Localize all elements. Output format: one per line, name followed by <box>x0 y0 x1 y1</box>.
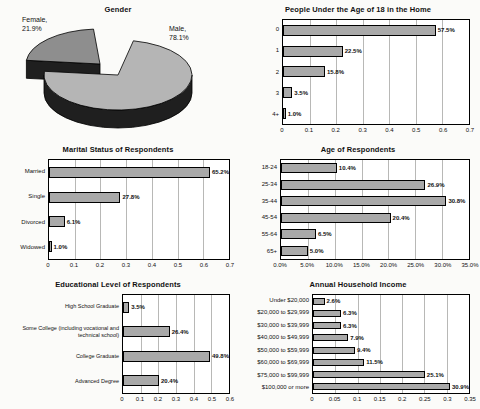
bar <box>49 192 120 203</box>
category-label: $50,000 to $59,999 <box>246 344 312 357</box>
value-label: 9.4% <box>357 347 371 353</box>
bar <box>313 322 341 329</box>
x-tick-label: 0.4 <box>148 262 156 268</box>
category-label: 0 <box>246 19 282 40</box>
bar <box>49 241 52 252</box>
plot-area: 10.4%26.9%30.8%20.4%6.5%5.0% <box>280 159 470 260</box>
category-label: Widowed <box>6 235 48 260</box>
bar-row: 27.8% <box>49 185 229 210</box>
bar-row: 65.2% <box>49 160 229 185</box>
category-axis: High School GraduateSome College (includ… <box>6 294 122 404</box>
x-tick-label: 0.0% <box>273 262 287 268</box>
category-axis: Under $20,000$20,000 to $29,999$30,000 t… <box>246 294 312 404</box>
x-tick-label: 0.5 <box>208 396 216 402</box>
bar-row: 20.4% <box>281 210 469 227</box>
bar-row: 11.5% <box>313 356 469 368</box>
category-label: Single <box>6 184 48 209</box>
x-tick-label: 30.0% <box>434 262 451 268</box>
bar <box>123 302 129 313</box>
bar <box>281 163 337 173</box>
value-label: 57.5% <box>438 27 455 33</box>
plot-area: 3.5%26.4%49.8%20.4% <box>122 294 230 394</box>
pie-graphic <box>6 17 230 139</box>
x-tick-label: 0.25 <box>419 396 431 402</box>
bar <box>49 216 65 227</box>
category-label: $60,000 to $69,999 <box>246 357 312 370</box>
x-tick-label: 0.05 <box>329 396 341 402</box>
value-label: 27.8% <box>122 194 139 200</box>
bar-row: 6.3% <box>313 320 469 332</box>
value-label: 3.5% <box>294 90 308 96</box>
chart-title: Marital Status of Respondents <box>6 143 230 157</box>
education-bar-chart: Educational Level of Respondents High Sc… <box>0 275 240 409</box>
gender-pie-chart: Gender Female, 21.9% Male, 78.1% <box>0 0 240 140</box>
bar-row: 5.0% <box>281 243 469 260</box>
page: Gender Female, 21.9% Male, 78.1% <box>0 0 480 409</box>
value-label: 6.5% <box>318 231 332 237</box>
x-tick-label: 0.7 <box>466 127 474 133</box>
category-label: 18-24 <box>246 159 280 176</box>
bar-row: 15.8% <box>283 62 469 83</box>
value-label: 20.4% <box>393 215 410 221</box>
value-label: 1.0% <box>288 111 302 117</box>
value-label: 26.4% <box>172 329 189 335</box>
category-axis: MarriedSingleDivorcedWidowed <box>6 159 48 270</box>
value-label: 10.4% <box>339 165 356 171</box>
bar-row: 30.8% <box>281 193 469 210</box>
x-tick-label: 0.2 <box>96 262 104 268</box>
value-label: 7.9% <box>350 335 364 341</box>
bar-row: 49.8% <box>123 344 229 369</box>
category-label: $20,000 to $29,999 <box>246 307 312 320</box>
x-tick-label: 0.1 <box>353 396 361 402</box>
category-label: 35-44 <box>246 193 280 210</box>
bar <box>313 334 348 341</box>
bar <box>283 87 292 98</box>
value-label: 6.3% <box>343 310 357 316</box>
value-label: 5.0% <box>310 248 324 254</box>
chart-body: Female, 21.9% Male, 78.1% <box>6 17 230 136</box>
value-label: 22.5% <box>345 48 362 54</box>
plot-area: 2.6%6.3%6.3%7.9%9.4%11.5%25.1%30.9% <box>312 294 470 394</box>
bar <box>281 196 446 206</box>
female-slice <box>26 29 100 64</box>
category-label: $30,000 to $39,999 <box>246 319 312 332</box>
x-tick-label: 0.1 <box>305 127 313 133</box>
x-axis: 00.10.20.30.40.50.60.7 <box>48 260 230 270</box>
value-label: 65.2% <box>212 169 229 175</box>
category-label: 1 <box>246 40 282 61</box>
bar-row: 57.5% <box>283 20 469 41</box>
female-slice-name: Female, <box>22 16 47 25</box>
value-label: 15.8% <box>327 69 344 75</box>
bar-row: 2.6% <box>313 295 469 307</box>
bar <box>281 213 391 223</box>
x-tick-label: 0.3 <box>172 396 180 402</box>
plot-column: 3.5%26.4%49.8%20.4% 00.10.20.30.40.50.6 <box>122 294 230 404</box>
bar <box>283 66 325 77</box>
value-label: 25.1% <box>427 372 444 378</box>
category-label: 2 <box>246 61 282 82</box>
chart-title: Age of Respondents <box>246 143 470 157</box>
male-slice-name: Male, <box>169 25 189 34</box>
value-label: 20.4% <box>161 378 178 384</box>
bar <box>313 371 425 378</box>
x-tick-label: 0 <box>310 396 313 402</box>
category-label: $40,000 to $49,999 <box>246 332 312 345</box>
marital-status-bar-chart: Marital Status of Respondents MarriedSin… <box>0 140 240 275</box>
plot-column: 65.2%27.8%6.1%1.0% 00.10.20.30.40.50.60.… <box>48 159 230 270</box>
x-tick-label: 0.2 <box>398 396 406 402</box>
x-tick-label: 0.6 <box>226 396 234 402</box>
chart-title: People Under the Age of 18 in the Home <box>246 3 470 17</box>
value-label: 6.3% <box>343 323 357 329</box>
category-label: Advanced Degree <box>6 369 122 394</box>
bar-row: 3.5% <box>123 295 229 320</box>
female-slice-pct: 21.9% <box>22 25 47 34</box>
chart-body: 18-2425-3435-4445-5455-6465+ 10.4%26.9%3… <box>246 157 470 270</box>
value-label: 30.9% <box>452 384 469 390</box>
bar-row: 30.9% <box>313 381 469 393</box>
category-label: 45-54 <box>246 209 280 226</box>
x-tick-label: 0.4 <box>190 396 198 402</box>
chart-title: Annual Household Income <box>246 278 470 292</box>
plot-column: 2.6%6.3%6.3%7.9%9.4%11.5%25.1%30.9% 00.0… <box>312 294 470 404</box>
category-axis: 01234+ <box>246 19 282 135</box>
plot-column: 10.4%26.9%30.8%20.4%6.5%5.0% 0.0%5.0%10.… <box>280 159 470 270</box>
